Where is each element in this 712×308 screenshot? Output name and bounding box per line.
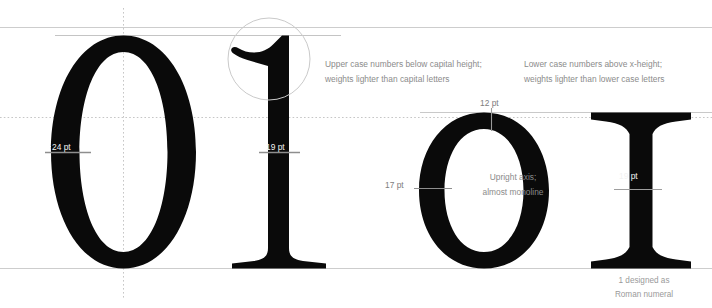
measurement-label-o-top-stroke: 12 pt xyxy=(480,99,499,107)
note-lower-case-line1: Lower case numbers above x-height; xyxy=(524,57,664,72)
note-roman-numeral: 1 designed as Roman numeral xyxy=(578,274,710,302)
specimen-canvas xyxy=(0,0,712,308)
note-lower-case-line2: weights lighter than lower case letters xyxy=(524,72,664,87)
measurement-label-one-stem: 19 pt xyxy=(266,143,285,151)
note-roman-numeral-line1: 1 designed as xyxy=(578,274,710,288)
note-lower-case-numbers: Lower case numbers above x-height; weigh… xyxy=(524,57,664,86)
measurement-label-i-stem: 19 pt xyxy=(619,172,638,180)
note-upper-case-line2: weights lighter than capital letters xyxy=(325,72,482,87)
note-upright-axis: Upright axis; almost monoline xyxy=(455,170,571,200)
typography-specimen: Upper case numbers below capital height;… xyxy=(0,0,712,308)
note-upper-case-line1: Upper case numbers below capital height; xyxy=(325,57,482,72)
note-upright-axis-line2: almost monoline xyxy=(455,185,571,200)
note-upper-case-numbers: Upper case numbers below capital height;… xyxy=(325,57,482,86)
note-roman-numeral-line2: Roman numeral xyxy=(578,288,710,302)
glyph-lowercase-i xyxy=(591,113,691,269)
measurement-label-zero-stroke: 24 pt xyxy=(52,143,71,151)
measurement-label-o-side-stroke: 17 pt xyxy=(385,181,404,189)
note-upright-axis-line1: Upright axis; xyxy=(455,170,571,185)
